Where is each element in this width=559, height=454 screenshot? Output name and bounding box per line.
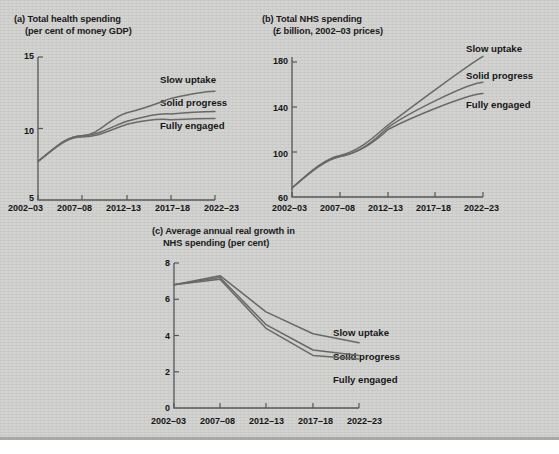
page-bottom-margin	[0, 440, 559, 454]
panel-c-curve-slow-uptake	[174, 276, 359, 343]
figure-panel-group: (a) Total health spending (per cent of m…	[0, 0, 559, 454]
panel-c-plot	[0, 0, 559, 454]
panel-c-axes	[174, 263, 359, 408]
panel-c-curve-solid-progress	[174, 278, 359, 356]
panel-c-curve-fully-engaged	[174, 279, 359, 359]
